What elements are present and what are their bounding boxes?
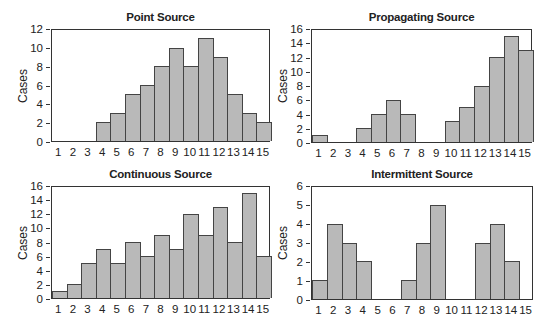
x-tick-label: 10 [444,304,460,316]
bar [110,113,126,141]
y-tick-mark [306,205,310,206]
bar [504,36,520,142]
x-tick-label: 15 [255,146,271,158]
chart-title: Point Source [51,11,270,23]
x-tick-label: 4 [355,304,371,316]
bar [169,249,185,298]
x-tick-label: 10 [182,303,198,315]
bar [125,242,141,298]
x-tick-label: 2 [65,146,81,158]
y-tick-mark [46,104,50,105]
bar [312,280,328,299]
x-tick-label: 15 [517,147,533,159]
bar [140,256,156,298]
x-tick-label: 13 [487,147,503,159]
bar [198,38,214,141]
y-tick-mark [46,257,50,258]
y-tick-label: 0 [23,136,43,148]
y-tick-label: 6 [23,80,43,92]
bar [183,214,199,298]
bar [490,224,506,299]
y-tick-label: 1 [283,275,303,287]
y-tick-label: 4 [283,109,303,121]
plot-area [311,29,532,143]
bar [430,205,446,299]
y-tick-label: 0 [283,294,303,306]
y-tick-label: 2 [283,256,303,268]
x-tick-label: 3 [340,304,356,316]
x-tick-label: 6 [123,303,139,315]
chart-title: Propagating Source [311,11,532,23]
x-tick-label: 7 [138,146,154,158]
x-tick-label: 1 [310,147,326,159]
bar [67,284,83,298]
x-tick-label: 7 [399,304,415,316]
y-tick-mark [46,271,50,272]
y-tick-mark [46,67,50,68]
y-tick-label: 10 [23,222,43,234]
x-tick-label: 8 [414,147,430,159]
bar [327,224,343,299]
x-tick-label: 10 [182,146,198,158]
x-tick-label: 11 [458,304,474,316]
y-tick-mark [306,186,310,187]
x-tick-label: 11 [458,147,474,159]
y-tick-mark [46,123,50,124]
x-tick-label: 6 [123,146,139,158]
bar [242,193,258,298]
y-tick-mark [306,29,310,30]
x-tick-label: 1 [310,304,326,316]
x-tick-label: 2 [65,303,81,315]
y-tick-mark [306,224,310,225]
x-tick-label: 1 [50,146,66,158]
x-tick-label: 4 [94,303,110,315]
y-tick-label: 2 [23,117,43,129]
y-tick-label: 10 [23,42,43,54]
bar [227,94,243,141]
y-tick-label: 12 [23,208,43,220]
y-tick-mark [46,243,50,244]
y-tick-label: 2 [23,279,43,291]
x-tick-label: 1 [50,303,66,315]
x-tick-label: 11 [196,303,212,315]
y-tick-mark [306,243,310,244]
bar [227,242,243,298]
bar [489,57,505,142]
y-tick-mark [306,86,310,87]
y-tick-label: 4 [23,265,43,277]
bar [475,243,491,300]
x-tick-label: 13 [488,304,504,316]
x-tick-label: 15 [255,303,271,315]
y-tick-mark [306,300,310,301]
bar [81,263,97,298]
bar [356,261,372,299]
y-tick-label: 8 [23,237,43,249]
chart-title: Intermittent Source [311,168,533,180]
y-tick-label: 6 [283,180,303,192]
y-tick-label: 12 [23,23,43,35]
x-tick-label: 13 [226,303,242,315]
x-tick-label: 4 [355,147,371,159]
y-tick-label: 16 [283,23,303,35]
bar [312,135,328,142]
x-tick-label: 3 [80,146,96,158]
y-tick-mark [306,100,310,101]
y-tick-label: 6 [23,251,43,263]
y-tick-label: 3 [283,237,303,249]
bar [213,207,229,298]
bar [183,66,199,141]
y-tick-label: 8 [23,61,43,73]
x-tick-label: 8 [153,146,169,158]
y-tick-label: 14 [283,37,303,49]
y-tick-label: 14 [23,194,43,206]
x-tick-label: 3 [80,303,96,315]
bar [371,114,387,142]
x-tick-label: 8 [414,304,430,316]
y-tick-label: 0 [283,137,303,149]
x-tick-label: 5 [370,304,386,316]
chart-title: Continuous Source [51,168,270,180]
x-tick-label: 13 [226,146,242,158]
y-tick-mark [46,228,50,229]
bar [386,100,402,142]
y-tick-label: 10 [283,66,303,78]
